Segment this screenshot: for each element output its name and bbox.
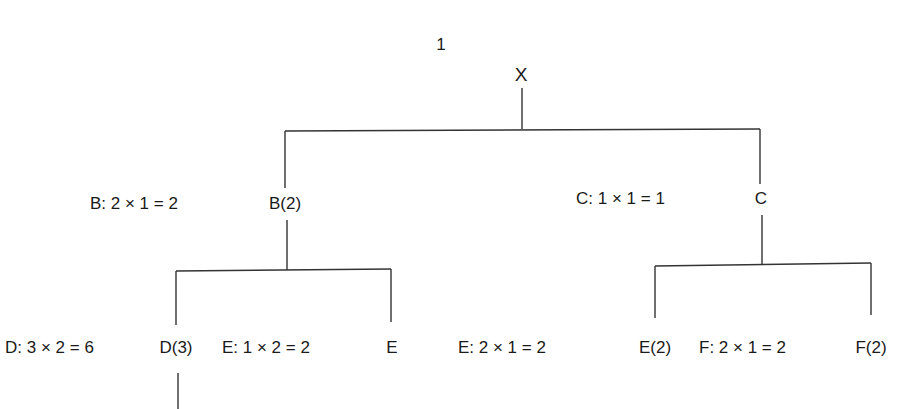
- node-e2: E(2): [639, 339, 671, 356]
- b-bar: [176, 269, 391, 271]
- node-f2: F(2): [855, 339, 886, 356]
- calc-e-left: E: 1 × 2 = 2: [222, 339, 310, 356]
- calc-c: C: 1 × 1 = 1: [576, 190, 665, 207]
- calc-b: B: 2 × 1 = 2: [90, 195, 178, 212]
- calc-d: D: 3 × 2 = 6: [5, 339, 94, 356]
- root-node-x: X: [515, 65, 528, 84]
- c-bar: [655, 263, 871, 266]
- calc-f: F: 2 × 1 = 2: [699, 339, 786, 356]
- level1-bar: [285, 129, 760, 131]
- page-label: 1: [436, 36, 445, 53]
- calc-e-right: E: 2 × 1 = 2: [458, 339, 546, 356]
- node-e-left: E: [386, 339, 397, 356]
- node-c: C: [755, 190, 767, 207]
- node-b: B(2): [269, 195, 301, 212]
- node-d: D(3): [159, 339, 192, 356]
